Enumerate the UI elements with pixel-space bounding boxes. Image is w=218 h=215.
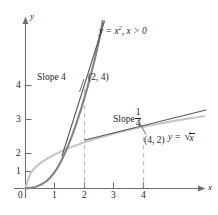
x-tick-label-2: 2 bbox=[82, 191, 87, 201]
y-axis-label: y bbox=[30, 12, 34, 21]
y-tick-label-4: 4 bbox=[16, 81, 21, 91]
sqrt-radical-group: √x bbox=[183, 131, 195, 143]
y-tick-label-2: 2 bbox=[16, 149, 21, 159]
slope-one-quarter-label: Slope14 bbox=[113, 108, 141, 129]
x-tick-marks bbox=[55, 183, 144, 189]
fraction-denominator: 4 bbox=[135, 118, 142, 129]
y-tick-label-3: 3 bbox=[16, 115, 21, 125]
parabola-curve bbox=[26, 21, 103, 188]
parabola-lhs: y = bbox=[99, 26, 114, 36]
y-tick-marks bbox=[26, 86, 32, 172]
point-4-2-label: (4, 2) bbox=[144, 136, 165, 146]
fraction-numerator: 1 bbox=[135, 108, 142, 118]
sqrt-lhs: y = bbox=[168, 132, 183, 142]
point-2-4-label: (2, 4) bbox=[88, 73, 109, 83]
parabola-equation-label: y = x2, x > 0 bbox=[99, 25, 147, 37]
y-axis bbox=[23, 17, 29, 199]
x-tick-label-4: 4 bbox=[141, 191, 146, 201]
graph-figure: y x 0 1 2 3 4 1 2 3 4 y = x2, x > 0 y = … bbox=[0, 0, 218, 215]
x-tick-label-1: 1 bbox=[52, 191, 57, 201]
slope-word: Slope bbox=[113, 114, 135, 124]
origin-tick-label: 0 bbox=[18, 191, 23, 201]
y-tick-label-1: 1 bbox=[16, 167, 21, 177]
x-axis bbox=[14, 186, 206, 192]
sqrt-equation-label: y = √x bbox=[168, 131, 195, 143]
slope-4-label: Slope 4 bbox=[37, 73, 66, 83]
tangent-line-slope4 bbox=[62, 21, 105, 156]
fraction-one-quarter: 14 bbox=[135, 108, 142, 129]
x-tick-label-3: 3 bbox=[111, 191, 116, 201]
parabola-condition: , x > 0 bbox=[122, 26, 147, 36]
x-axis-label: x bbox=[208, 183, 212, 192]
sqrt-radicand: x bbox=[189, 133, 195, 144]
